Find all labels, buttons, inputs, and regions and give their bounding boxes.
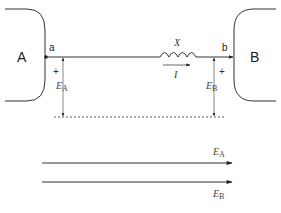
phasor-ea-symbol: E	[212, 146, 219, 157]
system-b-label: B	[250, 49, 259, 65]
phasor-eb-label: EB	[212, 188, 224, 201]
node-a-label: a	[49, 42, 55, 53]
voltage-ea-label: EA	[55, 80, 68, 93]
system-a-label: A	[17, 49, 27, 65]
inductor-x-icon	[160, 53, 196, 58]
polarity-ea-label: +	[53, 66, 59, 77]
current-label: I	[173, 69, 178, 80]
polarity-eb-label: +	[219, 66, 225, 77]
phasor-eb-symbol: E	[212, 188, 219, 199]
reactance-label: X	[173, 37, 181, 48]
two-source-circuit-diagram: A a B b X I + EA + EB EA EB	[0, 0, 281, 213]
phasor-ea-label: EA	[212, 146, 225, 159]
phasor-ea-subscript: A	[219, 150, 225, 159]
voltage-eb-subscript: B	[212, 84, 217, 93]
voltage-ea-symbol: E	[55, 80, 62, 91]
node-a-dot	[44, 55, 48, 59]
node-b-label: b	[222, 42, 228, 53]
voltage-ea-subscript: A	[62, 84, 68, 93]
voltage-eb-symbol: E	[205, 80, 212, 91]
phasor-eb-subscript: B	[219, 192, 224, 201]
voltage-eb-label: EB	[205, 80, 217, 93]
